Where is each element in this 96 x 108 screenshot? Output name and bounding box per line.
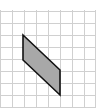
parallelogram <box>23 35 60 95</box>
grid-diagram <box>0 0 96 108</box>
